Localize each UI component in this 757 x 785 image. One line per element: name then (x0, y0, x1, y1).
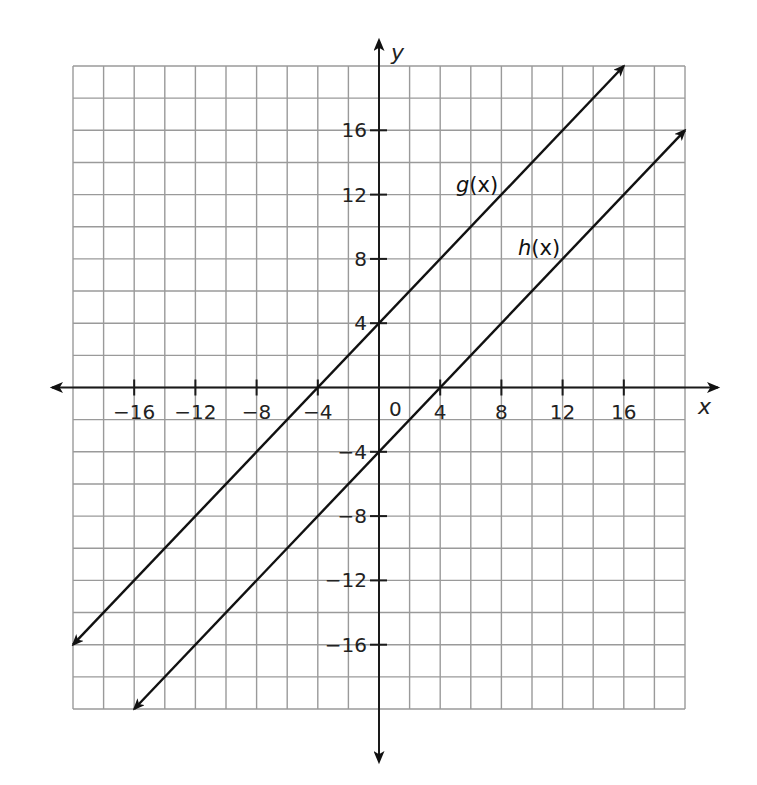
y-tick-label: −16 (325, 633, 367, 657)
x-tick-label: 4 (434, 400, 447, 424)
h-function-label: h(x) (518, 236, 560, 260)
x-axis-label: x (697, 394, 712, 419)
y-tick-label: 12 (342, 183, 367, 207)
g-function-name: g (456, 173, 469, 197)
y-axis-label: y (390, 40, 405, 65)
y-tick-label: −4 (338, 440, 367, 464)
g-function-arg: (x) (469, 173, 498, 197)
y-tick-label: 16 (342, 118, 367, 142)
x-tick-label: −8 (242, 400, 271, 424)
x-tick-label: −16 (113, 400, 155, 424)
x-tick-label: −12 (174, 400, 216, 424)
x-tick-label: 12 (550, 400, 575, 424)
y-tick-label: 8 (354, 247, 367, 271)
h-function-arg: (x) (531, 236, 560, 260)
x-tick-label: 16 (611, 400, 636, 424)
h-function-name: h (518, 236, 531, 260)
y-tick-label: 4 (354, 311, 367, 335)
x-tick-label: 8 (495, 400, 508, 424)
y-tick-label: −12 (325, 568, 367, 592)
x-tick-label: −4 (303, 400, 332, 424)
origin-label: 0 (389, 397, 402, 421)
g-function-label: g(x) (456, 173, 498, 197)
coordinate-plane: −16−12−8−4481216161284−4−8−12−16 x y 0 g… (0, 0, 757, 785)
y-tick-label: −8 (338, 504, 367, 528)
